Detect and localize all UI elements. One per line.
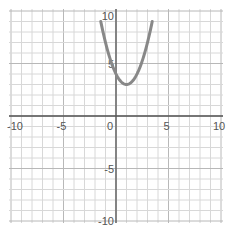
y-tick-label: -10	[98, 215, 114, 227]
coordinate-plane: -10-50510-10-5510	[0, 0, 232, 230]
x-tick-label: -5	[57, 120, 67, 132]
x-tick-label: 0	[107, 120, 113, 132]
y-tick-label: -5	[104, 163, 114, 175]
axes	[9, 9, 223, 223]
y-tick-label: 10	[102, 10, 114, 22]
x-tick-label: 5	[163, 120, 169, 132]
x-tick-label: -10	[7, 120, 23, 132]
x-tick-label: 10	[213, 120, 225, 132]
